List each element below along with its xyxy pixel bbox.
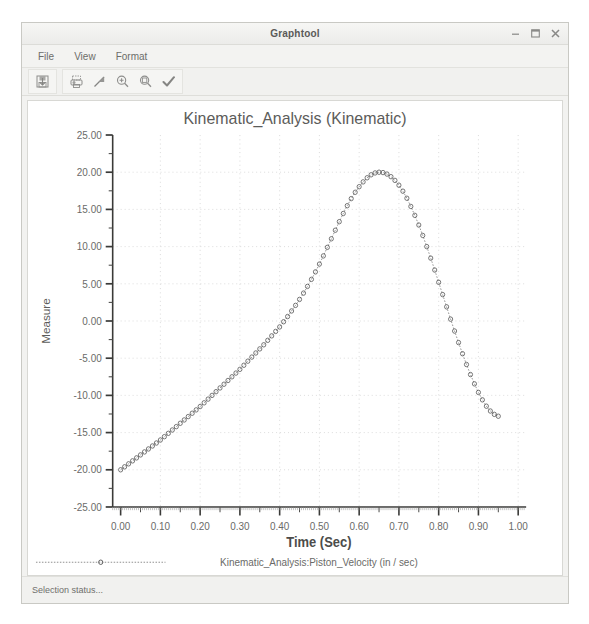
menu-item-format[interactable]: Format [108, 49, 156, 64]
chart-canvas[interactable]: Kinematic_Analysis (Kinematic) 25.0020.0… [27, 100, 563, 576]
svg-text:0.50: 0.50 [310, 521, 330, 532]
legend: Kinematic_Analysis:Piston_Velocity (in /… [36, 557, 418, 568]
menu-bar: File View Format [22, 45, 568, 68]
svg-text:0.70: 0.70 [389, 521, 409, 532]
toolbar-group-file [28, 69, 57, 94]
y-axis-ticks: 25.0020.0015.0010.005.000.00-5.00-10.00-… [73, 129, 112, 512]
toolbar-group-tools [62, 69, 183, 94]
title-bar: Graphtool [22, 23, 568, 45]
svg-text:0.90: 0.90 [469, 521, 489, 532]
svg-text:0.00: 0.00 [82, 315, 102, 326]
svg-text:25.00: 25.00 [77, 129, 102, 140]
svg-text:-20.00: -20.00 [73, 464, 102, 475]
zoom-out-button[interactable] [134, 71, 157, 92]
svg-text:0.10: 0.10 [151, 521, 171, 532]
x-axis-label: Time (Sec) [286, 535, 351, 550]
window-title: Graphtool [22, 23, 568, 44]
printer-button[interactable] [65, 71, 88, 92]
svg-text:-25.00: -25.00 [73, 501, 102, 512]
apply-checkmark-button[interactable] [157, 71, 180, 92]
svg-text:-5.00: -5.00 [79, 353, 102, 364]
status-bar: Selection status... [22, 576, 568, 603]
svg-text:0.00: 0.00 [111, 521, 131, 532]
svg-text:0.30: 0.30 [230, 521, 250, 532]
close-button[interactable] [550, 28, 561, 39]
window-controls [510, 23, 561, 44]
data-series-piston-velocity [119, 170, 501, 472]
svg-text:0.80: 0.80 [429, 521, 449, 532]
status-text: Selection status... [32, 585, 103, 595]
svg-text:-10.00: -10.00 [73, 390, 102, 401]
screenshot-root: Graphtool File View Format [0, 0, 589, 624]
maximize-button[interactable] [530, 28, 541, 39]
svg-text:0.60: 0.60 [349, 521, 369, 532]
y-axis-label: Measure [40, 298, 52, 343]
svg-text:15.00: 15.00 [77, 204, 102, 215]
svg-text:1.00: 1.00 [508, 521, 528, 532]
svg-text:10.00: 10.00 [77, 241, 102, 252]
x-axis-ticks: 0.000.100.200.300.400.500.600.700.800.90… [111, 507, 528, 532]
chart-title: Kinematic_Analysis (Kinematic) [183, 109, 406, 129]
svg-text:-15.00: -15.00 [73, 427, 102, 438]
legend-line-marker [36, 560, 166, 564]
graphtool-window: Graphtool File View Format [21, 22, 569, 604]
svg-text:0.40: 0.40 [270, 521, 290, 532]
legend-label: Kinematic_Analysis:Piston_Velocity (in /… [220, 557, 418, 568]
kinematic-analysis-plot: Kinematic_Analysis (Kinematic) 25.0020.0… [28, 101, 562, 575]
svg-text:5.00: 5.00 [82, 278, 102, 289]
trend-arrow-button[interactable] [88, 71, 111, 92]
save-plot-button[interactable] [31, 71, 54, 92]
svg-text:20.00: 20.00 [77, 167, 102, 178]
toolbar [22, 68, 568, 96]
zoom-in-button[interactable] [111, 71, 134, 92]
svg-text:0.20: 0.20 [190, 521, 210, 532]
minimize-button[interactable] [510, 28, 521, 39]
menu-item-file[interactable]: File [30, 49, 62, 64]
grid-lines [113, 135, 526, 507]
menu-item-view[interactable]: View [66, 49, 104, 64]
